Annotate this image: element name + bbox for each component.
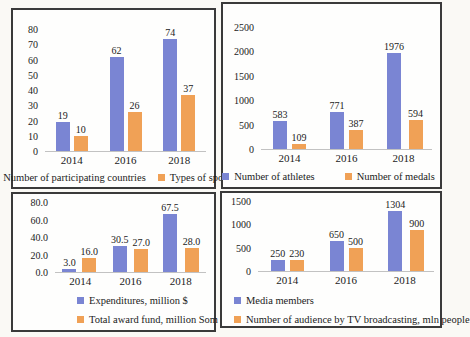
bar-series-2: [128, 112, 142, 151]
bar-value-label: 109: [292, 132, 307, 143]
legend-swatch-icon: [222, 173, 229, 180]
bar-group: 1910: [56, 30, 88, 151]
x-axis-category-label: 2014: [261, 152, 318, 165]
bar-value-label: 583: [273, 109, 288, 120]
bar-value-label: 500: [348, 236, 363, 247]
bar-series-2: [74, 136, 88, 151]
legend-label: Media members: [246, 294, 314, 307]
bar-value-label: 28.0: [183, 236, 201, 247]
bar-series-2: [349, 130, 363, 149]
legend-item: Number of audience by TV broadcasting, m…: [234, 313, 470, 326]
y-axis-tick-label: 0: [249, 145, 254, 155]
bar-with-label: 28.0: [183, 203, 201, 272]
category-group-cell: 650500: [317, 202, 376, 271]
legend-label: Total award fund, million Som: [89, 313, 218, 326]
bar-series-1: [388, 211, 402, 271]
y-axis-spacer: [19, 154, 45, 167]
legend-label: Number of athletes: [234, 170, 314, 183]
bar-series-2: [349, 248, 363, 271]
x-axis-category-label: 2014: [258, 274, 317, 287]
x-axis-category-label: 2018: [375, 274, 434, 287]
bar-series-2: [409, 120, 423, 149]
bar-value-label: 62: [112, 45, 122, 56]
legend-swatch-icon: [77, 297, 84, 304]
legend-label: Expenditures, million $: [89, 294, 188, 307]
legend: Media membersNumber of audience by TV br…: [226, 294, 434, 326]
bar-value-label: 10: [76, 124, 86, 135]
bar-with-label: 771: [330, 28, 345, 149]
y-axis-tick-label: 70: [28, 40, 38, 50]
y-axis-tick-label: 20.0: [31, 251, 49, 261]
bar-value-label: 26: [130, 100, 140, 111]
legend-item: Number of athletes: [222, 170, 314, 183]
bar-value-label: 230: [289, 248, 304, 259]
x-axis-labels: 201420162018: [55, 275, 206, 288]
y-axis-tick-label: 50: [28, 71, 38, 81]
bar-groups: 2502306505001304900: [258, 202, 434, 271]
bar-series-1: [330, 241, 344, 271]
y-axis-tick-label: 2500: [234, 23, 254, 33]
y-axis-tick-label: 40: [28, 86, 38, 96]
bar-group: 67.528.0: [161, 203, 200, 272]
bar-with-label: 650: [329, 202, 344, 271]
plot-area: 3.016.030.527.067.528.0: [55, 203, 206, 273]
category-group-cell: 771387: [318, 28, 375, 149]
x-axis-category-label: 2018: [156, 275, 206, 288]
bar-value-label: 387: [349, 118, 364, 129]
bar-series-2: [292, 144, 306, 149]
bar-with-label: 250: [270, 202, 285, 271]
legend-item: Total award fund, million Som: [77, 313, 218, 326]
bar-series-2: [185, 248, 199, 272]
bar-group: 583109: [273, 28, 307, 149]
y-axis-tick-label: 0.0: [36, 268, 49, 278]
plot-row: 01020304050607080 191062267437: [19, 30, 206, 152]
x-axis: 201420162018: [225, 152, 432, 165]
y-axis-tick-label: 60.0: [31, 216, 49, 226]
bar-with-label: 74: [163, 30, 177, 151]
bar-value-label: 650: [329, 229, 344, 240]
bar-with-label: 67.5: [161, 203, 179, 272]
y-axis-tick-label: 0: [246, 267, 251, 277]
x-axis: 201420162018: [19, 154, 206, 167]
legend-label: Number of participating countries: [3, 171, 146, 184]
y-axis-tick-label: 40.0: [31, 233, 49, 243]
category-group-cell: 67.528.0: [156, 203, 206, 272]
bar-value-label: 27.0: [132, 237, 150, 248]
bar-series-2: [410, 230, 424, 271]
bar-with-label: 10: [74, 30, 88, 151]
legend: Number of athletesNumber of medals: [225, 170, 432, 183]
category-group-cell: 6226: [99, 30, 153, 151]
bar-with-label: 1976: [384, 28, 404, 149]
x-axis: 201420162018: [226, 274, 434, 287]
bar-value-label: 19: [58, 110, 68, 121]
bar-value-label: 900: [409, 218, 424, 229]
y-axis-tick-label: 60: [28, 56, 38, 66]
chart-panel-countries-and-sports: 01020304050607080 191062267437 201420162…: [11, 8, 216, 189]
bar-series-2: [82, 258, 96, 272]
legend: Expenditures, million $Total award fund,…: [19, 294, 206, 326]
y-axis-tick-label: 0: [33, 147, 38, 157]
y-axis-tick-label: 1500: [234, 72, 254, 82]
x-axis-category-label: 2014: [55, 275, 105, 288]
category-group-cell: 1304900: [375, 202, 434, 271]
bar-with-label: 16.0: [80, 203, 98, 272]
bar-value-label: 37: [183, 83, 193, 94]
y-axis-tick-label: 500: [236, 244, 251, 254]
legend-item: Number of medals: [345, 170, 435, 183]
bar-value-label: 771: [330, 100, 345, 111]
bar-group: 30.527.0: [111, 203, 150, 272]
plot-row: 05001000150020002500 5831097713871976594: [225, 28, 432, 150]
y-axis-tick-label: 10: [28, 132, 38, 142]
bar-series-2: [290, 260, 304, 271]
bar-with-label: 387: [349, 28, 364, 149]
x-axis-labels: 201420162018: [258, 274, 434, 287]
legend-item: Expenditures, million $: [77, 294, 188, 307]
category-group-cell: 7437: [152, 30, 206, 151]
x-axis-labels: 201420162018: [261, 152, 432, 165]
bar-value-label: 30.5: [111, 234, 129, 245]
bar-value-label: 594: [408, 108, 423, 119]
bar-with-label: 230: [289, 202, 304, 271]
bar-series-1: [113, 246, 127, 272]
bar-groups: 5831097713871976594: [261, 28, 432, 149]
bar-group: 771387: [330, 28, 364, 149]
